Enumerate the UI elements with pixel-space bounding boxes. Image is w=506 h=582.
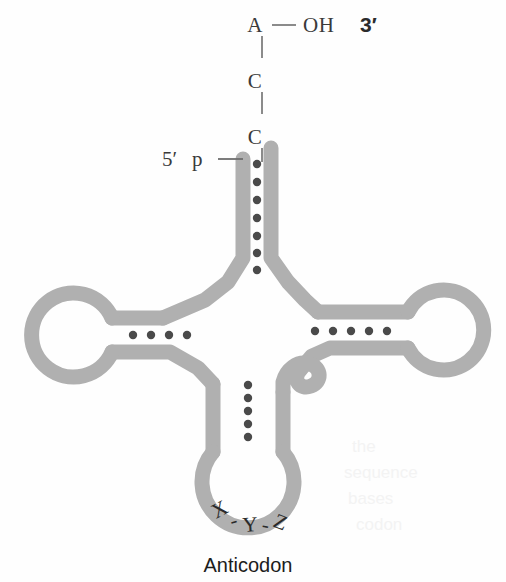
cytidine-upper-label: C bbox=[248, 69, 263, 93]
terminal-adenosine-label: A bbox=[247, 13, 263, 37]
acceptor-tail-bonds bbox=[262, 25, 296, 162]
basepair-dot bbox=[253, 249, 261, 257]
basepair-dot bbox=[244, 433, 252, 441]
page-showthrough-artifacts: the sequence bases codon bbox=[344, 437, 418, 534]
basepair-dot bbox=[253, 232, 261, 240]
d-arm-basepairs bbox=[129, 331, 191, 339]
trna-diagram-svg: the sequence bases codon bbox=[0, 0, 506, 582]
basepair-dot bbox=[244, 394, 252, 402]
basepair-dot bbox=[244, 381, 252, 389]
basepair-dot bbox=[329, 327, 337, 335]
basepair-dot bbox=[253, 196, 261, 204]
basepair-dot bbox=[311, 327, 319, 335]
basepair-dot bbox=[347, 327, 355, 335]
anticodon-base-y: Y bbox=[242, 512, 259, 537]
basepair-dot bbox=[383, 327, 391, 335]
anticodon-stem-basepairs bbox=[244, 381, 252, 441]
t-arm-basepairs bbox=[311, 327, 391, 335]
acceptor-stem-right-strand bbox=[271, 148, 318, 312]
basepair-dot bbox=[244, 420, 252, 428]
cytidine-lower-label: C bbox=[248, 125, 263, 149]
acceptor-stem-basepairs bbox=[253, 160, 261, 274]
ghost-text-2: sequence bbox=[344, 463, 418, 482]
acceptor-stem-left-strand bbox=[163, 159, 243, 318]
basepair-dot bbox=[253, 160, 261, 168]
basepair-dot bbox=[129, 331, 137, 339]
three-prime-label: 3′ bbox=[360, 13, 377, 36]
basepair-dot bbox=[253, 214, 261, 222]
basepair-dot bbox=[147, 331, 155, 339]
trna-cloverleaf-figure: the sequence bases codon bbox=[0, 0, 506, 582]
d-arm-bottom-strand bbox=[112, 352, 213, 384]
five-prime-label: 5′ bbox=[162, 147, 177, 171]
phosphate-label: p bbox=[192, 147, 203, 171]
anticodon-caption: Anticodon bbox=[204, 554, 293, 576]
anticodon-bases-group: X - Y - Z bbox=[207, 495, 291, 537]
ghost-text-1: the bbox=[352, 437, 376, 456]
basepair-dot bbox=[253, 266, 261, 274]
ghost-text-4: codon bbox=[356, 515, 402, 534]
t-loop-ring bbox=[408, 290, 484, 370]
basepair-dot bbox=[365, 327, 373, 335]
basepair-dot bbox=[165, 331, 173, 339]
ghost-text-3: bases bbox=[348, 489, 393, 508]
hydroxyl-label: OH bbox=[303, 13, 334, 37]
basepair-dot bbox=[183, 331, 191, 339]
d-loop-ring bbox=[32, 293, 112, 377]
basepair-dot bbox=[244, 407, 252, 415]
basepair-dot bbox=[253, 178, 261, 186]
